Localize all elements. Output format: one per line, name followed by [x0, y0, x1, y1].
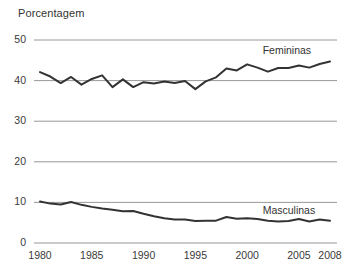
- chart-container: Porcentagem 01020304050 1980198519901995…: [0, 0, 357, 279]
- y-tick-10: 10: [4, 195, 26, 207]
- y-tick-40: 40: [4, 74, 26, 86]
- series-lines: [40, 62, 330, 222]
- series-line-femininas: [40, 62, 330, 90]
- series-label-masculinas: Masculinas: [263, 204, 316, 216]
- y-tick-50: 50: [4, 33, 26, 45]
- x-tick-2008: 2008: [318, 249, 341, 261]
- y-tick-20: 20: [4, 155, 26, 167]
- x-tick-1985: 1985: [80, 249, 103, 261]
- series-label-femininas: Femininas: [263, 44, 311, 56]
- chart-plot-area: [0, 0, 357, 279]
- x-tick-2000: 2000: [235, 249, 258, 261]
- y-tick-0: 0: [4, 236, 26, 248]
- y-tick-30: 30: [4, 114, 26, 126]
- x-tick-1990: 1990: [132, 249, 155, 261]
- x-tick-1995: 1995: [184, 249, 207, 261]
- x-tick-2005: 2005: [287, 249, 310, 261]
- x-tick-1980: 1980: [28, 249, 51, 261]
